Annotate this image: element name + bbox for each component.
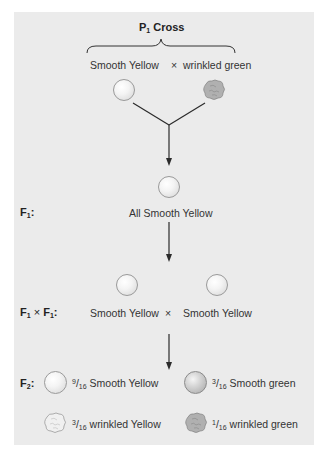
f2-wrinkled-yellow-pea-icon bbox=[43, 412, 67, 434]
f2-smooth-green-pea-icon bbox=[184, 371, 207, 394]
f1xf1-right-label: Smooth Yellow bbox=[183, 307, 252, 319]
f1-parent-right-pea-icon bbox=[206, 274, 228, 296]
f1-result-label: All Smooth Yellow bbox=[129, 207, 212, 219]
f1-parent-left-pea-icon bbox=[116, 274, 138, 296]
f1xf1-cross-symbol: × bbox=[165, 307, 171, 319]
f1xf1-generation-label: F1 × F1: bbox=[20, 306, 58, 319]
f2-generation-label: F2: bbox=[20, 377, 34, 390]
f1-smooth-yellow-pea-icon bbox=[158, 176, 180, 198]
f1xf1-left-label: Smooth Yellow bbox=[90, 307, 159, 319]
f2-outcome-wrinkled-green: 1/16 wrinkled green bbox=[212, 418, 298, 431]
f2-wrinkled-green-pea-icon bbox=[184, 412, 208, 434]
f2-smooth-yellow-pea-icon bbox=[44, 371, 67, 394]
f1-generation-label: F1: bbox=[20, 206, 34, 219]
f2-outcome-wrinkled-yellow: 3/16 wrinkled Yellow bbox=[72, 418, 161, 431]
f2-outcome-smooth-green: 3/16 Smooth green bbox=[212, 377, 296, 390]
f2-outcome-smooth-yellow: 9/16 Smooth Yellow bbox=[72, 377, 158, 390]
